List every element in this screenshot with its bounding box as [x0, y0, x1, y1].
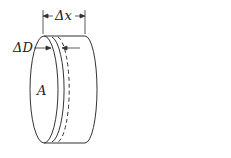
diffusion-slab-diagram: Δx ΔD A [0, 0, 231, 158]
concentration-texture [88, 22, 220, 152]
diagram-svg [0, 0, 231, 158]
area-label: A [37, 84, 46, 97]
delta-d-label: ΔD [13, 41, 33, 54]
delta-x-label: Δx [55, 9, 72, 22]
delta-d-arrows [34, 46, 80, 50]
